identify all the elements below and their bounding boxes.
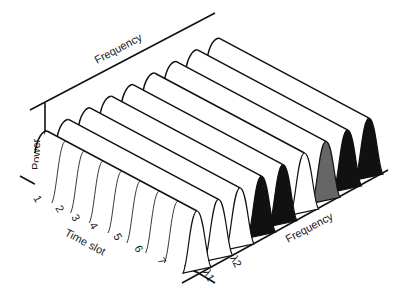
time-slot-label: Time slot [63, 226, 108, 257]
time-slot-2: 2 [53, 203, 66, 214]
time-slot-4: 4 [87, 220, 100, 231]
back-frequency-label: Frequency [92, 31, 144, 66]
lambda-1-label: λ1 [201, 267, 217, 283]
time-slot-1: 1 [31, 193, 44, 204]
waterfall-diagram: Frequency Power Frequency 1 2 3 4 5 6 7 … [0, 0, 408, 295]
time-slot-3: 3 [69, 212, 82, 223]
